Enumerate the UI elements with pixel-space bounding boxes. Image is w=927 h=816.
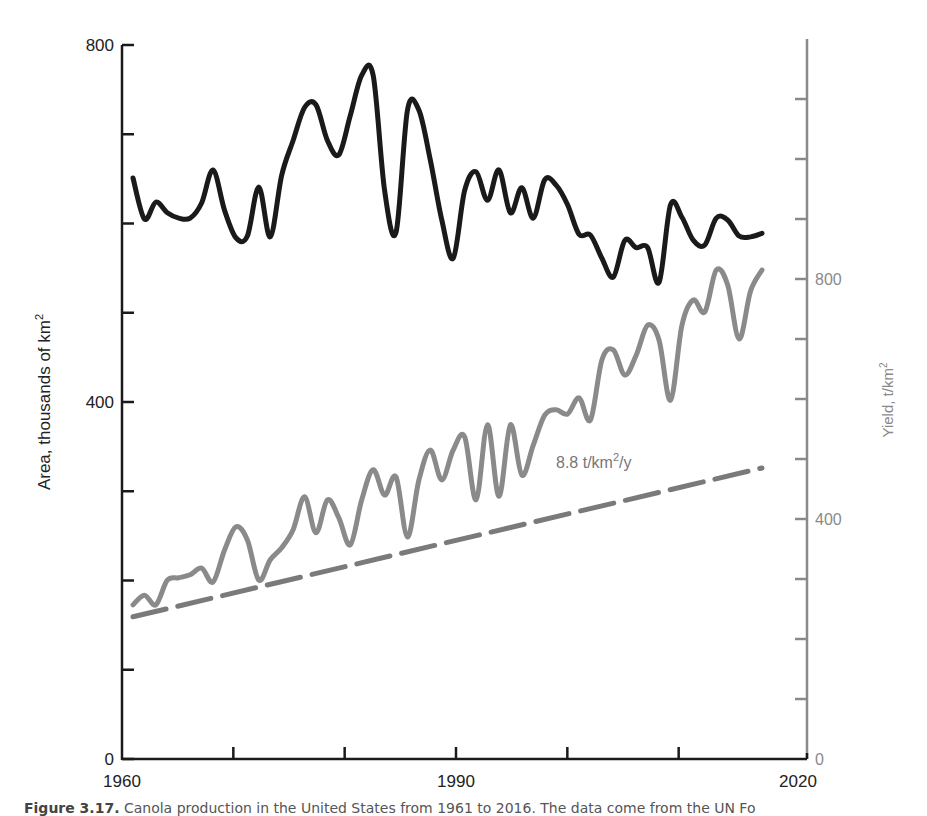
plot-area — [133, 65, 762, 617]
x-tick-label: 1990 — [437, 772, 475, 791]
left-tick-label: 800 — [86, 36, 114, 55]
right-y-axis: 0400800 — [795, 39, 842, 768]
right-tick-label: 800 — [815, 271, 842, 288]
right-tick-label: 0 — [815, 751, 824, 768]
left-tick-label: 400 — [86, 393, 114, 412]
trend-annotation: 8.8 t/km2/y — [556, 451, 631, 471]
figure-caption: Figure 3.17. Canola production in the Un… — [24, 800, 927, 816]
caption-text: Canola production in the United States f… — [124, 800, 756, 816]
right-tick-label: 400 — [815, 511, 842, 528]
x-tick-label: 2020 — [779, 772, 817, 791]
x-tick-label: 1960 — [103, 772, 141, 791]
right-axis-label: Yield, t/km2 — [878, 362, 896, 437]
caption-label: Figure 3.17. — [24, 800, 119, 816]
left-tick-label: 0 — [105, 750, 114, 769]
chart: 0400800 0400800 196019902020 Area, thous… — [0, 0, 927, 800]
left-y-axis: 0400800 — [86, 36, 134, 769]
x-axis: 196019902020 — [103, 747, 817, 791]
left-axis-label: Area, thousands of km2 — [33, 314, 54, 490]
yield-line — [133, 269, 762, 605]
area-line — [133, 65, 762, 283]
